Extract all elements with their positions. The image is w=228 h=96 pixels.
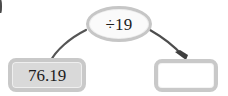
input-value-box: 76.19 xyxy=(8,58,86,92)
output-answer-box[interactable] xyxy=(154,59,218,92)
operator-bubble: ÷19 xyxy=(86,6,152,42)
input-value-label: 76.19 xyxy=(28,67,66,84)
function-machine-diagram: 76.19 ÷19 xyxy=(0,0,228,96)
operator-label: ÷19 xyxy=(105,16,132,33)
